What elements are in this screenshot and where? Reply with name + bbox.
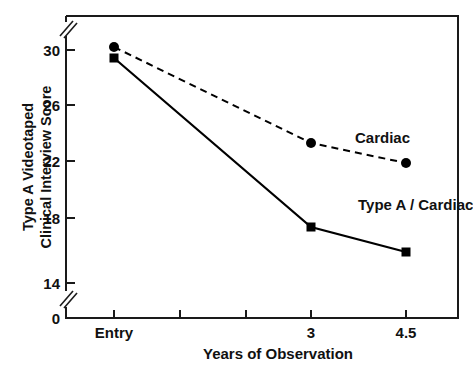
y-tick-label-14: 14 <box>43 275 60 292</box>
y-axis-title-line1: Type A Videotaped <box>20 103 36 231</box>
data-point-cardiac-3 <box>306 138 316 148</box>
x-tick-label-entry: Entry <box>95 324 134 341</box>
data-point-typea-4-5 <box>402 248 411 257</box>
data-point-typea-entry <box>110 54 119 63</box>
x-tick-label-4-5: 4.5 <box>396 324 417 341</box>
y-axis-title-line2: Clinical Interview Score <box>38 86 54 249</box>
chart-figure: 30 26 22 18 14 0 Entry 3 4.5 Years of Ob… <box>0 0 473 365</box>
data-point-cardiac-entry <box>109 42 119 52</box>
x-tick-label-3: 3 <box>307 324 315 341</box>
line-chart: 30 26 22 18 14 0 Entry 3 4.5 Years of Ob… <box>0 0 473 365</box>
y-tick-label-0: 0 <box>52 310 60 327</box>
x-axis-title: Years of Observation <box>203 345 353 362</box>
chart-background <box>0 0 473 365</box>
series-label-type-a-cardiac: Type A / Cardiac <box>358 196 473 213</box>
y-tick-label-30: 30 <box>43 42 60 59</box>
series-label-cardiac: Cardiac <box>355 129 410 146</box>
data-point-cardiac-4-5 <box>401 158 411 168</box>
data-point-typea-3 <box>307 223 316 232</box>
